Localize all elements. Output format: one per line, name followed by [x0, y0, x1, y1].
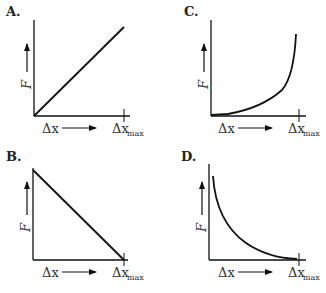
- figure: A. F Δx Δx max C. F Δx Δx max B. F Δx: [0, 0, 326, 293]
- panel-a: A. F Δx Δx max: [5, 4, 144, 138]
- x-label: Δx: [42, 265, 59, 280]
- x-label: Δx: [42, 121, 59, 136]
- svg-text:max: max: [303, 273, 320, 282]
- data-line: [34, 27, 124, 116]
- svg-text:max: max: [127, 273, 144, 282]
- panel-label: C.: [184, 4, 199, 19]
- y-label: F: [18, 222, 33, 233]
- panel-label: B.: [6, 149, 22, 164]
- panel-label: A.: [5, 4, 21, 19]
- panel-d: D. F Δx Δx max: [181, 149, 320, 282]
- y-label: F: [196, 79, 211, 90]
- data-curve: [213, 176, 297, 259]
- svg-text:max: max: [127, 129, 144, 138]
- data-line: [33, 170, 124, 260]
- y-label: F: [194, 222, 209, 233]
- svg-text:max: max: [303, 129, 320, 138]
- panel-b: B. F Δx Δx max: [6, 149, 144, 282]
- x-label: Δx: [218, 121, 235, 136]
- panel-c: C. F Δx Δx max: [184, 4, 320, 138]
- data-curve: [211, 34, 296, 115]
- x-label: Δx: [218, 265, 235, 280]
- y-label: F: [19, 79, 34, 90]
- panel-label: D.: [181, 149, 196, 164]
